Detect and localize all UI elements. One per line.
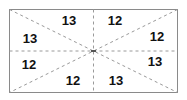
region-label-right-top: 12	[150, 29, 164, 44]
region-label-bottom-left: 12	[66, 73, 80, 88]
region-label-left-bottom: 12	[22, 57, 36, 72]
divided-rectangle-diagram: 13 12 12 13 13 12 12 13	[0, 0, 187, 100]
region-label-top-left: 13	[62, 13, 76, 28]
region-label-right-bottom: 13	[148, 54, 162, 69]
region-label-bottom-right: 13	[109, 73, 123, 88]
region-label-top-right: 12	[108, 13, 122, 28]
center-point	[91, 50, 96, 52]
region-label-left-top: 13	[23, 31, 37, 46]
